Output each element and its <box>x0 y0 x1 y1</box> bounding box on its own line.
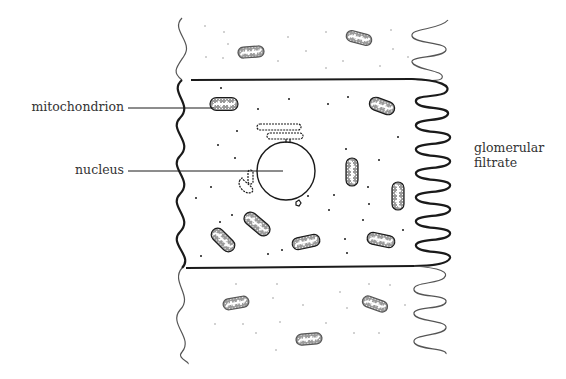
mitochondrion <box>222 295 250 310</box>
mitochondrion <box>361 294 389 313</box>
brush-border-upper <box>412 20 448 80</box>
mitochondria <box>209 29 404 345</box>
mitochondrion <box>296 332 323 345</box>
cytoplasm-granules <box>195 87 404 257</box>
nuclear-bleb <box>296 200 301 206</box>
mitochondrion <box>346 158 358 186</box>
label-filtrate-line2: filtrate <box>474 155 544 170</box>
golgi-fragments <box>239 170 253 193</box>
basal-membrane-left-lower <box>177 268 188 364</box>
label-filtrate-line1: glomerular <box>474 140 544 155</box>
label-glomerular-filtrate: glomerular filtrate <box>474 140 544 170</box>
mitochondrion <box>366 231 396 249</box>
mitochondrion <box>392 182 404 210</box>
brush-border-lower <box>414 266 446 354</box>
basal-membrane-left-outer <box>176 18 186 80</box>
mitochondrion <box>368 95 397 116</box>
label-nucleus: nucleus <box>75 162 124 177</box>
diagram-canvas <box>0 0 566 379</box>
mitochondrion <box>238 46 265 59</box>
endoplasmic-reticulum <box>257 124 303 143</box>
mitochondrion <box>345 29 373 46</box>
label-mitochondrion: mitochondrion <box>31 99 124 114</box>
mitochondrion <box>291 233 321 251</box>
mitochondrion <box>210 98 238 111</box>
cell-bottom-boundary <box>186 266 414 268</box>
mitochondrion <box>209 226 238 255</box>
brush-border-cell <box>412 79 450 266</box>
mitochondrion <box>241 209 272 238</box>
cell-top-boundary <box>191 79 412 80</box>
